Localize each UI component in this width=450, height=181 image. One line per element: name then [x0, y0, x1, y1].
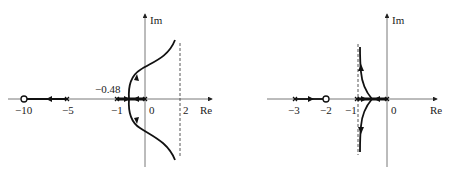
tick-label: −10 [15, 104, 33, 116]
left-upper-branch [129, 40, 175, 99]
arrow-icon [358, 127, 364, 134]
zero-marker-icon [323, 96, 329, 102]
tick-label: −1 [345, 104, 357, 116]
right-root-locus: Im Re −3 −2 −1 0 [267, 14, 442, 167]
left-real-label: Re [200, 104, 212, 116]
right-lower-branch [360, 99, 372, 152]
arrow-icon [133, 96, 139, 102]
left-root-locus: Im Re −0.48 −10 −5 −1 0 2 [8, 14, 212, 167]
tick-label: −1 [111, 104, 123, 116]
tick-label: −3 [288, 104, 300, 116]
arrow-icon [358, 64, 364, 71]
right-upper-branch [360, 47, 372, 99]
arrow-icon [46, 96, 52, 102]
right-imag-label: Im [392, 14, 405, 26]
arrow-icon [374, 96, 380, 102]
arrow-icon [361, 96, 367, 102]
tick-label: 0 [149, 104, 155, 116]
arrow-icon [308, 96, 314, 102]
zero-marker-icon [21, 96, 27, 102]
left-imag-label: Im [150, 14, 163, 26]
tick-label: 0 [391, 104, 397, 116]
breakaway-label: −0.48 [95, 83, 121, 95]
tick-label: 2 [183, 104, 189, 116]
right-real-label: Re [430, 104, 442, 116]
tick-label: −2 [320, 104, 332, 116]
tick-label: −5 [62, 104, 74, 116]
